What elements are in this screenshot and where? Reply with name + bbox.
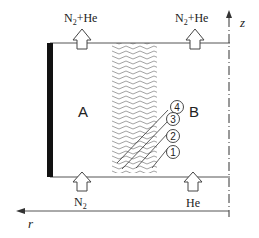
- r-axis-arrow-icon: [16, 208, 25, 214]
- axis-z-label: z: [239, 15, 245, 30]
- svg-text:4: 4: [174, 102, 180, 113]
- bottom-inlet-right-label: He: [186, 196, 200, 210]
- top-outlet-left-label: N2+He: [64, 11, 97, 27]
- left-wall: [47, 43, 53, 177]
- z-axis-arrow-icon: [226, 10, 232, 18]
- outlet-arrow-right-icon: [186, 29, 204, 49]
- membrane-label-2: 2: [167, 130, 180, 143]
- separation-cell-diagram: z r N2+He N2+He N2 He A B 4 3 2 1: [0, 0, 259, 238]
- top-outlet-right-label: N2+He: [175, 11, 208, 27]
- outlet-arrow-left-icon: [73, 29, 91, 49]
- svg-text:3: 3: [170, 114, 176, 125]
- membrane-label-3: 3: [167, 113, 180, 126]
- chamber-a-label: A: [78, 103, 88, 120]
- svg-text:2: 2: [170, 131, 176, 142]
- chamber-b-label: B: [189, 103, 199, 120]
- axis-r-label: r: [28, 216, 34, 231]
- membrane-label-4: 4: [171, 101, 184, 114]
- membrane-region: [112, 43, 157, 173]
- bottom-inlet-left-label: N2: [74, 195, 87, 211]
- inlet-arrow-left-icon: [73, 172, 91, 191]
- inlet-arrow-right-icon: [184, 172, 202, 191]
- svg-text:1: 1: [170, 147, 176, 158]
- membrane-label-1: 1: [167, 146, 180, 159]
